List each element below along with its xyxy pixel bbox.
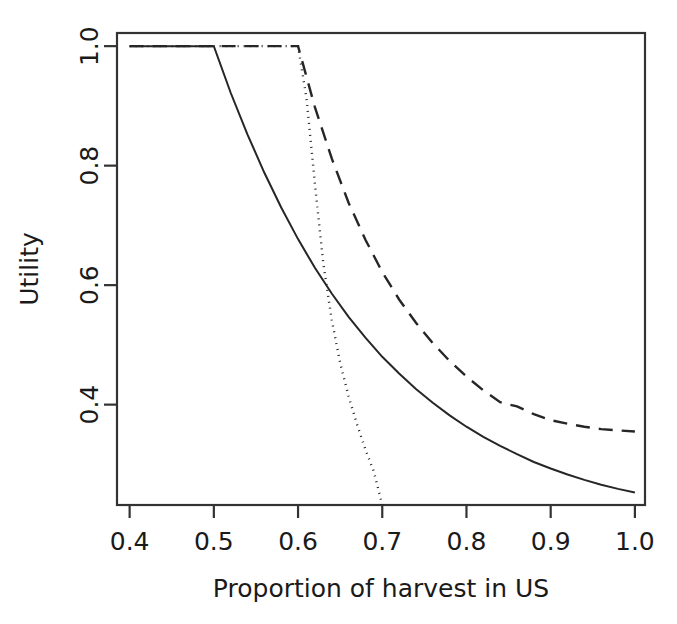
y-axis-title: Utility xyxy=(15,232,44,306)
y-tick-label-1.0: 1.0 xyxy=(76,26,105,66)
chart-figure: 0.40.50.60.70.80.91.0 0.40.60.81.0 Propo… xyxy=(0,0,677,624)
y-tick-label-0.4: 0.4 xyxy=(76,385,105,425)
chart-background xyxy=(0,0,677,624)
x-axis-title: Proportion of harvest in US xyxy=(213,574,549,603)
x-tick-label-0.4: 0.4 xyxy=(110,527,150,556)
x-tick-label-0.8: 0.8 xyxy=(447,527,487,556)
utility-line-chart: 0.40.50.60.70.80.91.0 0.40.60.81.0 Propo… xyxy=(0,0,677,624)
y-tick-label-0.8: 0.8 xyxy=(76,146,105,186)
y-tick-label-0.6: 0.6 xyxy=(76,265,105,305)
x-tick-label-0.5: 0.5 xyxy=(194,527,234,556)
x-tick-label-0.9: 0.9 xyxy=(531,527,571,556)
x-tick-label-0.6: 0.6 xyxy=(278,527,318,556)
x-tick-label-1.0: 1.0 xyxy=(615,527,655,556)
x-tick-label-0.7: 0.7 xyxy=(362,527,402,556)
